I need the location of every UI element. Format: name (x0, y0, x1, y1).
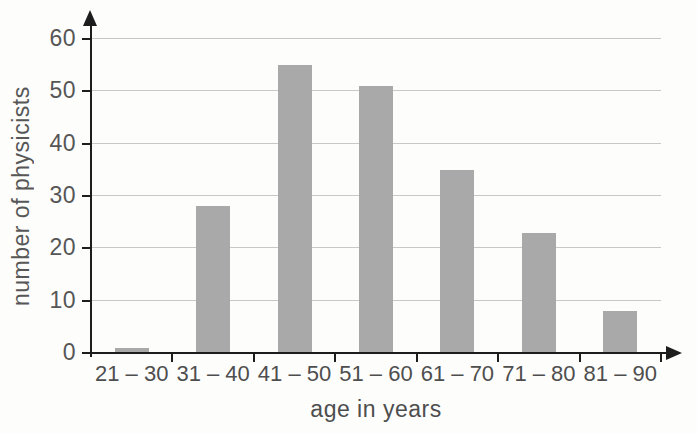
x-tick-label-6: 71 – 80 (498, 361, 579, 387)
bar-71–80 (522, 233, 556, 353)
bar-31–40 (196, 206, 230, 353)
y-tick-label-40: 40 (30, 130, 76, 157)
y-axis-arrow (83, 10, 97, 26)
bar-61–70 (440, 170, 474, 353)
x-axis-line (86, 352, 668, 354)
bar-51–60 (359, 86, 393, 353)
y-tick-label-10: 10 (30, 287, 76, 314)
x-tick-label-3: 41 – 50 (254, 361, 335, 387)
y-tick-label-50: 50 (30, 77, 76, 104)
y-tick-label-30: 30 (30, 182, 76, 209)
x-tick-7 (660, 354, 662, 362)
gridline-60 (91, 38, 661, 40)
x-axis-arrow (666, 346, 682, 360)
bar-chart-figure: number of physicists 010203040506021 – 3… (0, 0, 697, 433)
y-axis-line (90, 22, 92, 357)
bar-41–50 (278, 65, 312, 353)
x-axis-title: age in years (91, 396, 661, 423)
plot-area: 010203040506021 – 3031 – 4041 – 5051 – 6… (0, 0, 697, 433)
y-tick-label-0: 0 (30, 339, 76, 366)
bar-81–90 (603, 311, 637, 353)
x-tick-label-1: 21 – 30 (91, 361, 172, 387)
x-tick-label-2: 31 – 40 (172, 361, 253, 387)
y-tick-label-20: 20 (30, 234, 76, 261)
x-tick-label-7: 81 – 90 (580, 361, 661, 387)
x-tick-label-4: 51 – 60 (335, 361, 416, 387)
x-tick-label-5: 61 – 70 (417, 361, 498, 387)
y-tick-label-60: 60 (30, 25, 76, 52)
